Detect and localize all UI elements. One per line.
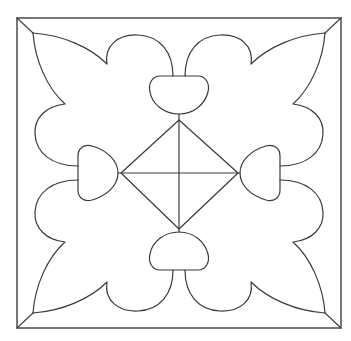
lobe-bottom [149,232,208,270]
miter-line-bottom-left [17,313,33,328]
tile-canvas: Ornamental tile line drawing [0,0,351,341]
miter-line-top-right [325,18,341,33]
leaf-bottom-right [185,180,325,313]
leaf-top-right [185,33,325,166]
miter-line-bottom-right [325,313,341,328]
lobe-right [240,145,280,200]
lobe-top [149,76,208,114]
center-diamond [118,114,240,232]
lobe-left [78,145,118,200]
miter-line-top-left [17,18,33,33]
ornamental-tile-drawing [0,0,351,341]
